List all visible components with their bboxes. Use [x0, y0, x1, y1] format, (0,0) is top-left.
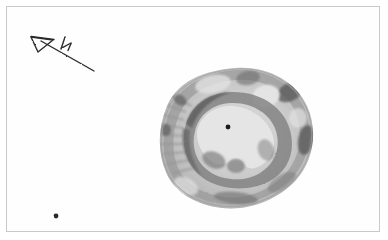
sketch-figure: N: [0, 0, 388, 240]
pencil-sketch-drawing: [0, 0, 388, 240]
north-arrow-icon: [31, 37, 94, 72]
auxiliary-point-dot: [54, 214, 59, 219]
north-arrow-label: [61, 37, 71, 51]
ring-feature-group: [150, 55, 330, 225]
center-point-dot: [226, 125, 231, 130]
